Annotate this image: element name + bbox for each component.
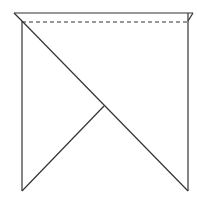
top-left-corner-line [14, 13, 22, 21]
inner-diagonal-line [22, 106, 104, 191]
diagram-lines [14, 13, 193, 191]
top-right-corner-line [188, 13, 193, 21]
fold-diagram [0, 0, 197, 197]
